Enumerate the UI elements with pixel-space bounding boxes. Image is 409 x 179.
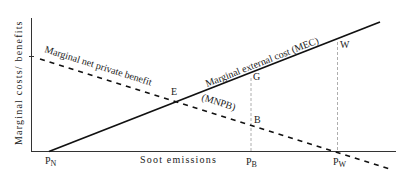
pb-label: PB <box>246 156 257 169</box>
pn-label: PN <box>45 155 57 168</box>
mec-curve-label: Marginal external cost (MEC) <box>204 35 321 90</box>
externality-diagram: Marginal costs/ benefits Soot emissions … <box>0 0 409 179</box>
pw-label: PW <box>333 156 347 169</box>
point-g-label: G <box>253 71 260 82</box>
mnpb-abbrev-label: (MNPB) <box>200 91 237 113</box>
point-b-label: B <box>254 114 261 125</box>
mec-curve <box>49 22 380 152</box>
x-axis-label: Soot emissions <box>140 154 217 165</box>
point-e-label: E <box>171 86 177 97</box>
y-axis-label: Marginal costs/ benefits <box>13 20 24 145</box>
point-w-label: W <box>340 39 350 50</box>
